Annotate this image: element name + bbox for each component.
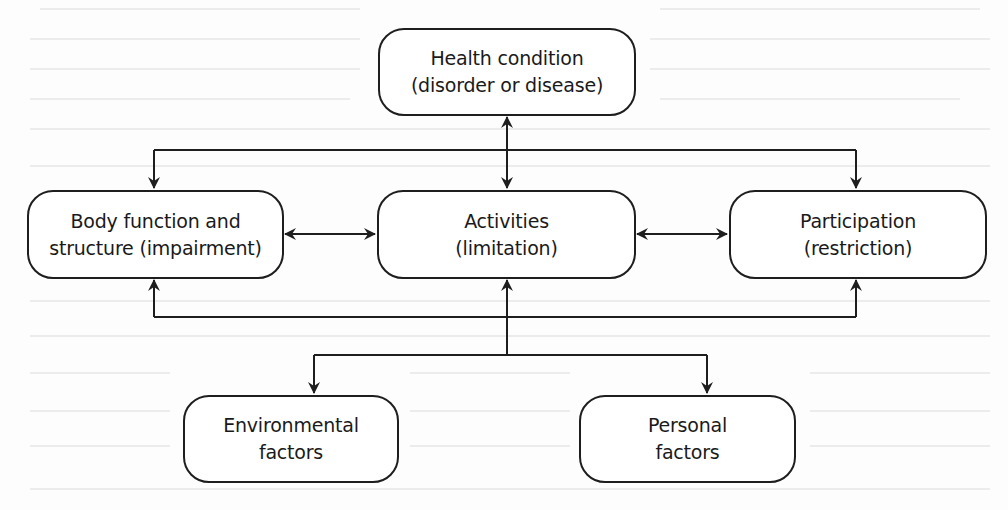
node-body-function-title: Body function and [70, 208, 240, 235]
diagram-canvas: Health condition (disorder or disease) B… [0, 0, 1008, 510]
node-body-function: Body function and structure (impairment) [27, 190, 284, 279]
node-activities: Activities (limitation) [377, 190, 636, 279]
node-personal-factors: Personal factors [579, 395, 796, 483]
node-environmental-subtitle: factors [259, 439, 323, 466]
node-participation-subtitle: (restriction) [804, 235, 913, 262]
node-activities-title: Activities [464, 208, 549, 235]
node-activities-subtitle: (limitation) [455, 235, 557, 262]
node-health-condition: Health condition (disorder or disease) [378, 28, 636, 116]
node-participation-title: Participation [800, 208, 916, 235]
node-participation: Participation (restriction) [729, 190, 987, 279]
node-health-condition-title: Health condition [430, 45, 583, 72]
node-health-condition-subtitle: (disorder or disease) [411, 72, 603, 99]
node-personal-subtitle: factors [655, 439, 719, 466]
node-personal-title: Personal [648, 412, 727, 439]
node-environmental-factors: Environmental factors [183, 395, 399, 483]
node-body-function-subtitle: structure (impairment) [49, 235, 262, 262]
node-environmental-title: Environmental [223, 412, 359, 439]
